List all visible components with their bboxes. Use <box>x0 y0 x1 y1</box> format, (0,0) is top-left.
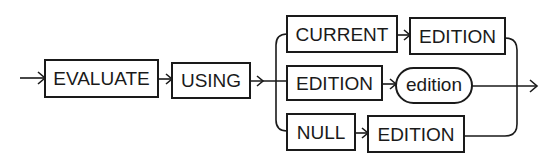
svg-text:USING: USING <box>181 70 241 91</box>
choice-current-edition: CURRENT EDITION <box>287 16 505 54</box>
svg-text:EDITION: EDITION <box>377 124 454 145</box>
choice-edition-variable: EDITION edition <box>287 66 472 103</box>
choice-null-edition: NULL EDITION <box>287 114 464 152</box>
svg-text:NULL: NULL <box>297 122 346 143</box>
svg-text:edition: edition <box>406 74 462 95</box>
branch-rail-left <box>276 34 287 131</box>
entry-arrow <box>20 72 45 84</box>
svg-text:CURRENT: CURRENT <box>296 24 389 45</box>
svg-text:EDITION: EDITION <box>296 73 373 94</box>
connector-arrow <box>250 76 287 86</box>
svg-text:EVALUATE: EVALUATE <box>53 68 149 89</box>
svg-text:EDITION: EDITION <box>419 26 496 47</box>
exit-arrow <box>472 80 537 92</box>
syntax-diagram: EVALUATE USING CURRENT EDITION EDITION e… <box>0 0 547 163</box>
keyword-evaluate: EVALUATE <box>45 60 158 97</box>
keyword-using: USING <box>172 63 250 98</box>
connector-arrow <box>158 74 172 84</box>
